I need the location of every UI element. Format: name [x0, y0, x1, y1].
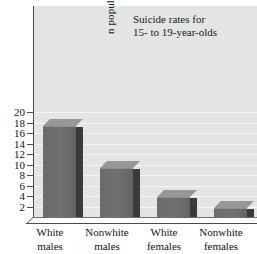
y-axis-tick: [27, 154, 33, 155]
y-axis-tick: [27, 112, 33, 113]
bar-top-face: [43, 119, 83, 126]
x-axis-category-labels: WhitemalesNonwhitemalesWhitefemalesNonwh…: [26, 225, 257, 254]
y-axis-tick: [27, 196, 33, 197]
bar-side-face: [76, 127, 83, 217]
y-axis-tick: [27, 123, 33, 124]
bar-side-face: [190, 198, 197, 217]
bar: [100, 161, 140, 217]
bar-front-face: [43, 126, 76, 217]
y-axis-tick: [27, 175, 33, 176]
bar-front-face: [157, 197, 190, 217]
bar-side-face: [247, 209, 254, 217]
y-axis-tick: [27, 165, 33, 166]
bar-side-face: [133, 169, 140, 217]
bar: [214, 201, 254, 217]
bar: [157, 190, 197, 217]
gridline: [33, 112, 257, 113]
bar: [43, 119, 83, 217]
x-axis-line: [26, 223, 257, 224]
y-axis-tick-label: 2: [0, 202, 25, 213]
bar-front-face: [214, 208, 247, 217]
chart-title-line-1: Suicide rates for: [133, 13, 217, 26]
chart-title: Suicide rates for 15- to 19-year-olds: [133, 13, 217, 39]
chart-title-line-2: 15- to 19-year-olds: [133, 26, 217, 39]
y-axis-tick: [27, 186, 33, 187]
bar-top-face: [214, 201, 254, 208]
bar-top-face: [157, 190, 197, 197]
y-axis-tick: [27, 144, 33, 145]
bar-top-face: [100, 161, 140, 168]
x-axis-front-edge: [33, 217, 257, 218]
bar-front-face: [100, 168, 133, 217]
x-axis-category-label: Nonwhitefemales: [181, 225, 257, 253]
y-axis-label: n population: [104, 0, 116, 34]
x-axis-category-label-line: Nonwhite: [181, 225, 257, 239]
y-axis-tick: [27, 133, 33, 134]
y-axis-tick: [27, 207, 33, 208]
y-axis-line: [33, 6, 34, 217]
x-axis-category-label-line: females: [181, 239, 257, 253]
bar-chart: 2018161412108642 n population Suicide ra…: [0, 0, 257, 254]
